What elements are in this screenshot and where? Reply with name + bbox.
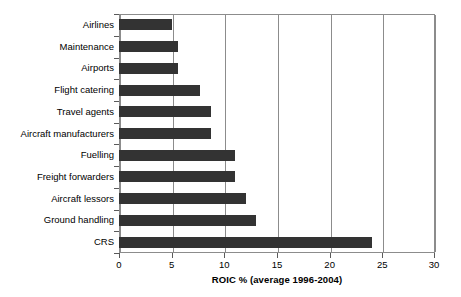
x-tick [382, 253, 383, 258]
bar-slot [119, 166, 235, 188]
y-label-crs: CRS [2, 237, 114, 247]
bar-slot [119, 231, 372, 253]
y-tick [114, 210, 119, 211]
bar-flight-catering [119, 85, 200, 96]
y-tick [114, 58, 119, 59]
y-label-airlines: Airlines [2, 20, 114, 30]
y-label-fuelling: Fuelling [2, 150, 114, 160]
bar-slot [119, 79, 200, 101]
bar-ground-handling [119, 215, 256, 226]
bar-slot [119, 188, 246, 210]
roic-bar-chart: Airlines Maintenance Airports Flight cat… [0, 0, 461, 297]
bar-travel-agents [119, 106, 211, 117]
bar-airlines [119, 19, 172, 30]
y-axis-labels: Airlines Maintenance Airports Flight cat… [0, 14, 114, 253]
y-tick [114, 79, 119, 80]
x-label-25: 25 [362, 259, 402, 270]
bar-slot [119, 123, 211, 145]
x-tick [224, 253, 225, 258]
gridline-30 [435, 15, 436, 252]
y-label-freight-forwarders: Freight forwarders [2, 172, 114, 182]
y-label-aircraft-manufacturers: Aircraft manufacturers [2, 129, 114, 139]
x-label-5: 5 [152, 259, 192, 270]
x-label-10: 10 [204, 259, 244, 270]
bar-crs [119, 237, 372, 248]
y-tick [114, 36, 119, 37]
y-tick [114, 231, 119, 232]
y-tick [114, 188, 119, 189]
bar-fuelling [119, 150, 235, 161]
bar-slot [119, 14, 172, 36]
x-label-0: 0 [99, 259, 139, 270]
bar-slot [119, 36, 178, 58]
y-tick [114, 123, 119, 124]
bar-slot [119, 210, 256, 232]
bar-slot [119, 144, 235, 166]
y-label-ground-handling: Ground handling [2, 215, 114, 225]
x-axis-title: ROIC % (average 1996-2004) [119, 274, 435, 285]
bar-freight-forwarders [119, 171, 235, 182]
x-label-15: 15 [257, 259, 297, 270]
bar-aircraft-lessors [119, 193, 246, 204]
y-tick [114, 101, 119, 102]
y-label-maintenance: Maintenance [2, 42, 114, 52]
x-label-20: 20 [310, 259, 350, 270]
x-tick [119, 253, 120, 258]
bar-airports [119, 63, 178, 74]
bars-layer [119, 14, 435, 253]
x-label-30: 30 [414, 259, 454, 270]
y-label-aircraft-lessors: Aircraft lessors [2, 194, 114, 204]
bar-maintenance [119, 41, 178, 52]
x-tick [277, 253, 278, 258]
x-tick [434, 253, 435, 258]
bar-aircraft-manufacturers [119, 128, 211, 139]
y-tick [114, 166, 119, 167]
y-label-travel-agents: Travel agents [2, 107, 114, 117]
x-tick [172, 253, 173, 258]
y-label-flight-catering: Flight catering [2, 85, 114, 95]
bar-slot [119, 57, 178, 79]
y-tick [114, 144, 119, 145]
y-label-airports: Airports [2, 63, 114, 73]
x-tick [330, 253, 331, 258]
bar-slot [119, 101, 211, 123]
y-tick [114, 14, 119, 15]
